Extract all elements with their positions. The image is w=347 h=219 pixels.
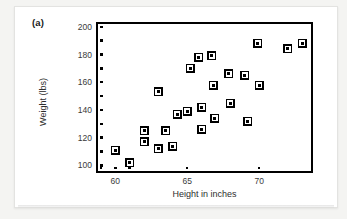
y-tick-label: 100 xyxy=(52,160,92,170)
x-axis-tick xyxy=(128,167,131,170)
y-axis-tick xyxy=(100,95,103,98)
panel-label: (a) xyxy=(32,17,44,28)
data-point xyxy=(253,39,262,48)
data-point xyxy=(240,71,249,80)
y-axis-tick xyxy=(100,136,103,139)
y-axis-tick xyxy=(100,39,103,42)
data-point xyxy=(183,107,192,116)
x-tick-labels: 606570 xyxy=(96,176,313,190)
x-tick-label: 65 xyxy=(172,176,202,186)
y-tick-label: 160 xyxy=(52,77,92,87)
data-point xyxy=(140,126,149,135)
data-point xyxy=(197,125,206,134)
y-tick-label: 200 xyxy=(52,22,92,32)
y-tick-labels: 100120140160180200 xyxy=(52,22,92,173)
x-axis-title: Height in inches xyxy=(96,189,313,199)
data-point xyxy=(210,114,219,123)
data-point xyxy=(186,64,195,73)
data-point xyxy=(111,146,120,155)
y-axis-tick xyxy=(100,67,103,70)
y-axis-tick xyxy=(100,53,103,56)
data-point xyxy=(140,137,149,146)
data-point xyxy=(194,53,203,62)
data-point xyxy=(298,39,307,48)
x-axis-tick xyxy=(114,167,117,170)
data-point xyxy=(255,81,264,90)
data-point xyxy=(226,99,235,108)
y-axis-tick xyxy=(100,109,103,112)
data-point xyxy=(154,87,163,96)
x-axis-tick xyxy=(258,167,261,170)
card-shadow xyxy=(18,205,334,208)
x-axis-tick xyxy=(100,167,103,170)
y-tick-label: 140 xyxy=(52,105,92,115)
data-point xyxy=(209,81,218,90)
x-tick-label: 60 xyxy=(100,176,130,186)
plot-frame xyxy=(96,22,313,173)
data-point xyxy=(168,142,177,151)
x-tick-label: 70 xyxy=(244,176,274,186)
data-point xyxy=(207,51,216,60)
data-point xyxy=(243,117,252,126)
y-axis-title: Weight (lbs) xyxy=(38,57,48,147)
data-point xyxy=(161,126,170,135)
data-point xyxy=(197,103,206,112)
y-tick-label: 120 xyxy=(52,133,92,143)
y-axis-tick xyxy=(100,150,103,153)
data-point xyxy=(154,144,163,153)
data-point xyxy=(224,69,233,78)
data-point xyxy=(283,44,292,53)
data-point xyxy=(173,110,182,119)
figure-page: (a) Weight (lbs) 100120140160180200 6065… xyxy=(0,0,347,219)
y-tick-label: 180 xyxy=(52,50,92,60)
y-axis-tick xyxy=(100,81,103,84)
x-axis-tick xyxy=(186,167,189,170)
y-axis-tick xyxy=(100,123,103,126)
y-axis-tick xyxy=(100,26,103,29)
plot-area xyxy=(98,24,311,171)
